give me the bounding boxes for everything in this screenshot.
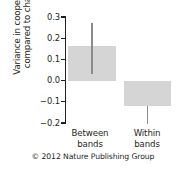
bar-within-bands[interactable] [124,81,171,106]
x-axis-labels: Between bands Within bands [0,128,186,154]
y-tick-5 [61,122,65,123]
y-tick-label-0: 0.3 [34,13,60,14]
error-bar-within-bands [147,106,148,124]
y-tick-1 [61,38,65,39]
y-tick-label-text-5: −0.2 [36,119,60,127]
figure-panel: Variance in cooperation compared to chan… [0,0,186,169]
y-tick-label-text-1: 0.2 [36,34,60,42]
y-tick-0 [61,16,65,17]
y-tick-4 [61,101,65,102]
x-label-within-bands: Within bands [112,128,182,150]
x-label-within-bands-line1: Within [112,128,182,139]
y-tick-label-text-0: 0.3 [36,13,60,21]
y-tick-label-text-3: 0.0 [36,76,60,84]
plot-area [66,17,178,123]
y-tick-label-4: −0.1 [34,97,60,98]
y-tick-label-text-2: 0.1 [36,55,60,63]
x-label-within-bands-line2: bands [112,139,182,150]
y-axis-label: Variance in cooperation compared to chan… [9,0,35,85]
error-bar-between-bands [91,23,92,74]
y-axis-label-line1: Variance in cooperation [12,0,23,75]
copyright-notice: © 2012 Nature Publishing Group [0,152,186,161]
y-axis-label-line2: compared to chance [22,0,33,68]
y-tick-3 [61,80,65,81]
y-tick-label-2: 0.1 [34,55,60,56]
y-tick-label-3: 0.0 [34,76,60,77]
y-tick-label-text-4: −0.1 [36,97,60,105]
y-tick-2 [61,59,65,60]
y-tick-label-5: −0.2 [34,119,60,120]
y-tick-label-1: 0.2 [34,34,60,35]
